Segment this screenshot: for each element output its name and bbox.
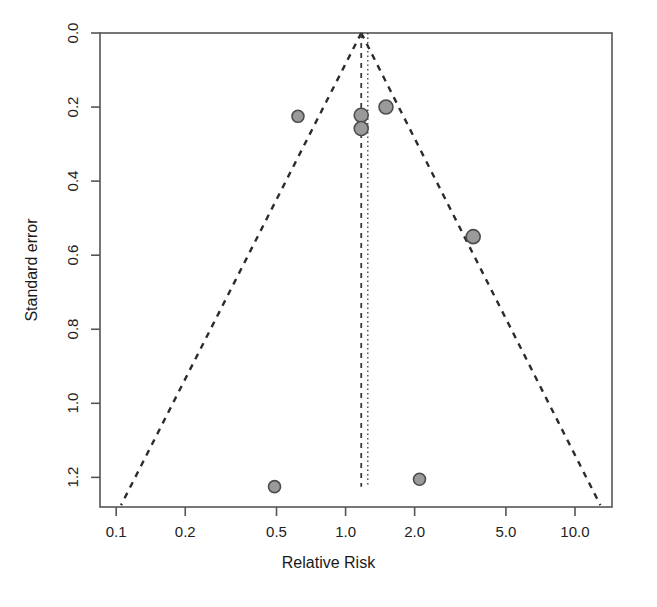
y-tick-label-2: 0.4 [64, 171, 81, 192]
y-tick-label-4: 0.8 [64, 319, 81, 340]
axis-layer [91, 33, 612, 516]
data-point-4 [466, 230, 480, 244]
data-point-2 [354, 122, 368, 136]
x-tick-label-2: 0.5 [266, 523, 287, 540]
y-tick-label-6: 1.2 [64, 467, 81, 488]
y-axis-title: Standard error [23, 218, 41, 321]
data-point-5 [269, 481, 281, 493]
data-point-1 [354, 108, 368, 122]
data-point-3 [379, 100, 393, 114]
x-tick-label-3: 1.0 [335, 523, 356, 540]
data-point-6 [414, 473, 426, 485]
x-tick-label-6: 10.0 [560, 523, 589, 540]
x-tick-label-5: 5.0 [495, 523, 516, 540]
y-tick-label-5: 1.0 [64, 393, 81, 414]
plot-frame [100, 33, 612, 507]
x-tick-label-4: 2.0 [404, 523, 425, 540]
x-tick-label-1: 0.2 [175, 523, 196, 540]
y-tick-label-0: 0.0 [64, 23, 81, 44]
funnel-left-boundary [121, 33, 361, 505]
plot-canvas [0, 0, 657, 607]
y-tick-label-1: 0.2 [64, 97, 81, 118]
data-points [269, 100, 481, 493]
x-axis-title: Relative Risk [0, 554, 657, 572]
funnel-right-boundary [361, 33, 600, 505]
y-tick-label-3: 0.6 [64, 245, 81, 266]
funnel-plot-figure: 0.10.20.51.02.05.010.00.00.20.40.60.81.0… [0, 0, 657, 607]
reference-lines [361, 33, 368, 487]
data-point-0 [292, 110, 304, 122]
x-tick-label-0: 0.1 [106, 523, 127, 540]
